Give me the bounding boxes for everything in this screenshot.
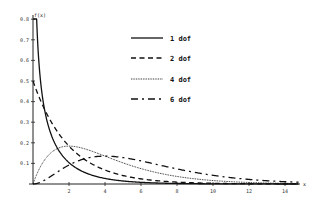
x-tick-label: 10 bbox=[210, 188, 216, 194]
legend-label: 4 dof bbox=[170, 76, 191, 84]
x-tick-label: 8 bbox=[175, 188, 178, 194]
axes: 0.10.20.30.40.50.60.70.82468101214f(x)x bbox=[20, 12, 306, 194]
x-tick-label: 14 bbox=[282, 188, 288, 194]
y-axis-label: f(x) bbox=[34, 12, 46, 18]
curves bbox=[33, 19, 299, 184]
x-tick-label: 4 bbox=[103, 188, 106, 194]
legend-item-1-dof: 1 dof bbox=[131, 35, 191, 43]
y-tick-label: 0.8 bbox=[20, 16, 29, 22]
y-tick-label: 0.1 bbox=[20, 160, 29, 166]
curve-2-dof bbox=[33, 81, 299, 184]
x-tick-label: 12 bbox=[246, 188, 252, 194]
x-axis-label: x bbox=[303, 181, 306, 187]
y-tick-label: 0.2 bbox=[20, 140, 29, 146]
curve-1-dof bbox=[33, 19, 298, 184]
legend-item-4-dof: 4 dof bbox=[131, 76, 191, 84]
chi-square-chart: 0.10.20.30.40.50.60.70.82468101214f(x)x … bbox=[0, 0, 325, 205]
y-tick-label: 0.6 bbox=[20, 57, 29, 63]
legend-label: 6 dof bbox=[170, 96, 191, 104]
y-tick-label: 0.7 bbox=[20, 37, 29, 43]
curve-6-dof bbox=[33, 156, 299, 184]
x-tick-label: 2 bbox=[67, 188, 70, 194]
x-tick-label: 6 bbox=[139, 188, 142, 194]
y-tick-label: 0.3 bbox=[20, 119, 29, 125]
y-tick-label: 0.5 bbox=[20, 78, 29, 84]
legend-item-2-dof: 2 dof bbox=[131, 55, 191, 63]
legend-label: 1 dof bbox=[170, 35, 191, 43]
legend: 1 dof2 dof4 dof6 dof bbox=[131, 35, 191, 104]
legend-label: 2 dof bbox=[170, 55, 191, 63]
legend-item-6-dof: 6 dof bbox=[131, 96, 191, 104]
y-tick-label: 0.4 bbox=[20, 98, 29, 104]
